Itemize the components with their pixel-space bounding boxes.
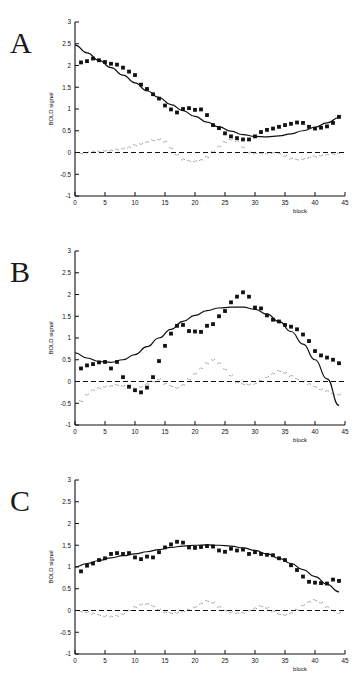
- data-point: [277, 125, 281, 129]
- residual-point: [100, 615, 101, 616]
- residual-point: [151, 139, 152, 140]
- residual-point: [157, 139, 158, 140]
- residual-point: [313, 599, 314, 600]
- residual-point: [256, 608, 257, 609]
- residual-point: [213, 603, 214, 604]
- data-point: [337, 361, 341, 365]
- plot-b: -1-0.500.511.522.53051015202530354045BOL…: [0, 229, 361, 458]
- residual-point: [265, 377, 266, 378]
- residual-point: [250, 152, 251, 153]
- residual-point: [262, 154, 263, 155]
- residual-point: [160, 609, 161, 610]
- y-tick-label: -1: [65, 192, 71, 199]
- x-tick-label: 30: [251, 657, 259, 664]
- x-tick-label: 40: [311, 657, 319, 664]
- residual-point: [205, 362, 206, 363]
- residual-point: [165, 141, 166, 142]
- data-point: [325, 356, 329, 360]
- x-tick-label: 45: [341, 428, 349, 435]
- residual-point: [123, 614, 124, 615]
- residual-point: [219, 362, 220, 363]
- data-point: [139, 390, 143, 394]
- residual-point: [319, 602, 320, 603]
- residual-point: [277, 370, 278, 371]
- residual-point: [237, 140, 238, 141]
- residual-point: [202, 368, 203, 369]
- residual-point: [147, 603, 148, 604]
- residual-point: [274, 153, 275, 154]
- data-point: [223, 131, 227, 135]
- residual-point: [255, 383, 256, 384]
- panel-b: B -1-0.500.511.522.53051015202530354045B…: [0, 229, 361, 458]
- residual-point: [94, 613, 95, 614]
- residual-point: [331, 393, 332, 394]
- residual-point: [316, 157, 317, 158]
- x-tick-label: 15: [161, 657, 169, 664]
- x-tick-label: 10: [131, 199, 139, 206]
- x-axis-title: block: [293, 208, 307, 214]
- residual-point: [181, 612, 182, 613]
- y-axis-title: BOLD signal: [48, 92, 54, 125]
- residual-point: [93, 389, 94, 390]
- y-tick-label: -1: [65, 650, 71, 657]
- residual-point: [172, 613, 173, 614]
- data-point: [157, 550, 161, 554]
- residual-point: [328, 391, 329, 392]
- residual-point: [256, 383, 257, 384]
- residual-point: [313, 156, 314, 157]
- residual-point: [319, 389, 320, 390]
- residual-point: [147, 141, 148, 142]
- residual-point: [105, 151, 106, 152]
- residual-point: [112, 616, 113, 617]
- residual-point: [169, 385, 170, 386]
- residual-point: [220, 607, 221, 608]
- residual-point: [153, 140, 154, 141]
- residual-point: [184, 159, 185, 160]
- residual-point: [303, 605, 304, 606]
- residual-point: [310, 601, 311, 602]
- residual-point: [285, 156, 286, 157]
- residual-point: [199, 369, 200, 370]
- residual-point: [82, 154, 83, 155]
- residual-point: [118, 385, 119, 386]
- residual-point: [207, 601, 208, 602]
- residual-point: [232, 139, 233, 140]
- residual-point: [295, 159, 296, 160]
- data-point: [235, 549, 239, 553]
- residual-point: [279, 153, 280, 154]
- residual-point: [163, 142, 164, 143]
- residual-point: [169, 147, 170, 148]
- x-tick-label: 0: [73, 428, 77, 435]
- residual-point: [229, 612, 230, 613]
- residual-point: [249, 385, 250, 386]
- y-tick-label: 2: [67, 291, 71, 298]
- y-tick-label: -0.5: [60, 400, 71, 407]
- residual-point: [237, 612, 238, 613]
- residual-point: [196, 606, 197, 607]
- residual-point: [291, 375, 292, 376]
- residual-point: [325, 391, 326, 392]
- data-point: [85, 564, 89, 568]
- residual-point: [289, 159, 290, 160]
- residual-point: [325, 155, 326, 156]
- residual-point: [337, 153, 338, 154]
- data-point: [223, 309, 227, 313]
- residual-point: [291, 612, 292, 613]
- residual-point: [129, 387, 130, 388]
- residual-point: [231, 140, 232, 141]
- residual-point: [220, 146, 221, 147]
- data-point: [133, 556, 137, 560]
- residual-point: [100, 388, 101, 389]
- x-tick-label: 5: [103, 428, 107, 435]
- data-point: [151, 375, 155, 379]
- residual-point: [267, 154, 268, 155]
- x-tick-label: 25: [221, 657, 229, 664]
- residual-point: [226, 611, 227, 612]
- data-point: [187, 106, 191, 110]
- residual-point: [238, 141, 239, 142]
- x-tick-label: 35: [281, 657, 289, 664]
- residual-point: [201, 159, 202, 160]
- residual-point: [141, 605, 142, 606]
- residual-point: [99, 615, 100, 616]
- residual-point: [223, 141, 224, 142]
